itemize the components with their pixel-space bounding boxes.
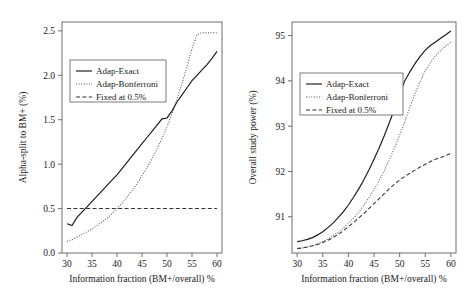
x-tick-label: 55	[187, 259, 197, 269]
x-tick-label: 40	[112, 259, 122, 269]
y-axis-title: Overall study power (%)	[248, 90, 259, 184]
study-power-chart: 303540455055609192939495Information frac…	[234, 0, 467, 297]
legend-label: Adap-Exact	[96, 66, 139, 76]
y-tick-label: 91	[275, 212, 285, 222]
legend-label: Fixed at 0.5%	[96, 92, 147, 102]
y-tick-label: 1.5	[43, 115, 55, 125]
x-tick-label: 55	[420, 259, 430, 269]
x-tick-label: 30	[292, 259, 302, 269]
chart-panel-left: 303540455055600.00.51.01.52.02.5Informat…	[0, 0, 234, 297]
x-tick-label: 40	[343, 259, 353, 269]
x-axis-title: Information fraction (BM+/overall) %	[69, 274, 215, 285]
y-tick-label: 92	[275, 167, 285, 177]
legend-label: Adap-Exact	[326, 79, 369, 89]
y-axis-title: Alpha-split to BM+ (%)	[18, 92, 29, 184]
chart-panel-right: 303540455055609192939495Information frac…	[234, 0, 467, 297]
x-tick-label: 60	[212, 259, 222, 269]
y-tick-label: 0.5	[43, 204, 55, 214]
x-tick-label: 50	[394, 259, 404, 269]
series-line-fixed-at-0-5	[297, 153, 451, 248]
x-tick-label: 45	[137, 259, 147, 269]
y-tick-label: 1.0	[43, 160, 55, 170]
y-tick-label: 0.0	[43, 248, 55, 258]
x-tick-label: 45	[369, 259, 379, 269]
plot-frame	[62, 22, 222, 253]
legend-label: Fixed at 0.5%	[326, 105, 377, 115]
y-tick-label: 94	[275, 76, 285, 86]
x-tick-label: 60	[446, 259, 456, 269]
y-tick-label: 2.5	[43, 26, 55, 36]
x-tick-label: 35	[87, 259, 97, 269]
y-tick-label: 2.0	[43, 71, 55, 81]
x-tick-label: 30	[62, 259, 72, 269]
y-tick-label: 93	[275, 122, 285, 132]
plot-frame	[292, 22, 456, 253]
x-tick-label: 35	[318, 259, 328, 269]
y-tick-label: 95	[275, 31, 285, 41]
figure-container: 303540455055600.00.51.01.52.02.5Informat…	[0, 0, 467, 297]
series-line-adap-exact	[297, 31, 451, 242]
x-tick-label: 50	[162, 259, 172, 269]
x-axis-title: Information fraction (BM+/overall) %	[301, 274, 447, 285]
legend-label: Adap-Bonferroni	[326, 92, 388, 102]
legend-label: Adap-Bonferroni	[96, 79, 158, 89]
alpha-split-chart: 303540455055600.00.51.01.52.02.5Informat…	[0, 0, 233, 297]
series-group	[297, 31, 451, 248]
